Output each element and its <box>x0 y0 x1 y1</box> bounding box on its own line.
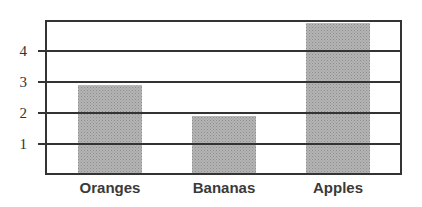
y-axis: 1234 <box>20 43 28 152</box>
y-tick-label: 1 <box>20 136 28 152</box>
y-tick-label: 4 <box>20 43 28 59</box>
y-tick-label: 2 <box>20 105 28 121</box>
bar-chart: 1234 OrangesBananasApples <box>0 0 422 207</box>
x-category-label: Oranges <box>80 179 141 196</box>
bar-apples <box>306 23 370 174</box>
bar-oranges <box>78 85 142 174</box>
x-category-label: Apples <box>313 179 363 196</box>
x-axis: OrangesBananasApples <box>80 179 363 196</box>
bar-bananas <box>192 116 256 174</box>
y-tick-label: 3 <box>20 74 28 90</box>
bars-group <box>78 23 370 174</box>
x-category-label: Bananas <box>193 179 256 196</box>
